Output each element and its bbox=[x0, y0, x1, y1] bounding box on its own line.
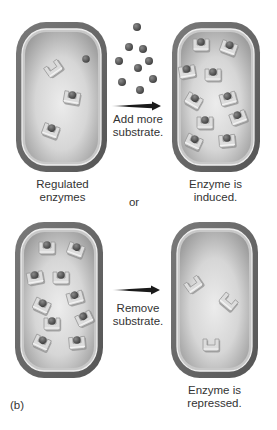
arrow-right-icon bbox=[112, 286, 160, 295]
enzyme-substrate-complex-icon bbox=[53, 271, 70, 285]
arrow-right-icon bbox=[111, 102, 161, 111]
substrate-pool bbox=[115, 23, 157, 94]
substrate-molecule-icon bbox=[149, 75, 157, 83]
arrow-label-line-1: Add more bbox=[108, 113, 168, 126]
caption-line-2: induced. bbox=[168, 191, 263, 204]
arrow-label-add-substrate: Add more substrate. bbox=[108, 113, 168, 139]
caption-line-1: Enzyme is bbox=[168, 178, 263, 191]
panel-label-text: (b) bbox=[10, 399, 32, 412]
separator-text: or bbox=[119, 196, 149, 209]
enzyme-substrate-complex-icon bbox=[197, 116, 214, 130]
cytoplasm bbox=[25, 32, 98, 162]
panel-label: (b) bbox=[10, 399, 32, 412]
enzyme-substrate-complex-icon bbox=[44, 317, 61, 331]
caption-line-1: Enzyme is bbox=[167, 384, 262, 397]
substrate-molecule-icon bbox=[82, 55, 90, 63]
cell-enzyme-repressed bbox=[171, 222, 258, 378]
substrate-molecule-icon bbox=[136, 86, 144, 94]
caption-line-1: Regulated bbox=[15, 178, 110, 191]
cell-regulated-enzymes bbox=[16, 22, 107, 172]
enzyme-substrate-complex-icon bbox=[193, 38, 210, 52]
substrate-molecule-icon bbox=[134, 64, 142, 72]
substrate-molecule-icon bbox=[145, 57, 153, 65]
separator-or: or bbox=[119, 196, 149, 209]
cell-induced-before-removal bbox=[15, 222, 103, 378]
caption-enzyme-induced: Enzyme is induced. bbox=[168, 178, 263, 204]
arrow-label-line-2: substrate. bbox=[108, 126, 168, 139]
substrate-molecule-icon bbox=[118, 78, 126, 86]
caption-line-2: repressed. bbox=[167, 397, 262, 410]
caption-regulated-enzymes: Regulated enzymes bbox=[15, 178, 110, 204]
enzyme-substrate-complex-icon bbox=[205, 68, 222, 82]
arrow-label-line-2: substrate. bbox=[106, 315, 170, 328]
enzyme-regulation-diagram bbox=[0, 0, 277, 430]
substrate-molecule-icon bbox=[115, 57, 123, 65]
arrow-label-line-1: Remove bbox=[106, 302, 170, 315]
substrate-molecule-icon bbox=[125, 43, 133, 51]
caption-line-2: enzymes bbox=[15, 191, 110, 204]
enzyme-substrate-complex-icon bbox=[39, 241, 56, 255]
enzyme-substrate-complex-icon bbox=[69, 335, 87, 351]
cell-enzyme-induced bbox=[172, 22, 260, 172]
substrate-molecule-icon bbox=[133, 23, 141, 31]
arrow-label-remove-substrate: Remove substrate. bbox=[106, 302, 170, 328]
caption-enzyme-repressed: Enzyme is repressed. bbox=[167, 384, 262, 410]
substrate-molecule-icon bbox=[139, 45, 147, 53]
enzyme-substrate-complex-icon bbox=[219, 133, 237, 149]
